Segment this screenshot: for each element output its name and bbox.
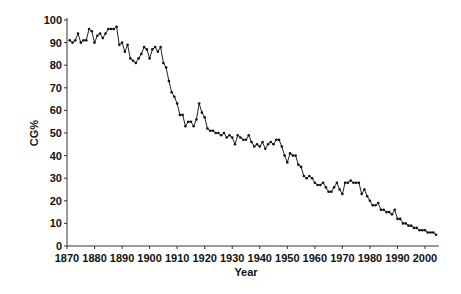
data-point — [429, 231, 432, 234]
x-tick-label: 1940 — [248, 252, 272, 264]
data-point — [173, 96, 176, 99]
data-point — [388, 211, 391, 214]
data-point — [327, 190, 330, 193]
data-point — [190, 120, 193, 123]
data-point — [231, 136, 234, 139]
data-point — [311, 177, 314, 180]
data-point — [426, 231, 429, 234]
data-point — [245, 138, 248, 141]
y-tick-label: 50 — [50, 127, 62, 139]
data-point — [292, 154, 295, 157]
data-point — [333, 186, 336, 189]
data-point — [391, 213, 394, 216]
data-point — [140, 53, 143, 56]
data-point — [129, 57, 132, 60]
data-point — [435, 233, 438, 236]
data-point — [377, 202, 380, 205]
data-point — [261, 141, 264, 144]
data-point — [432, 231, 435, 234]
data-point — [104, 32, 107, 35]
data-point — [168, 80, 171, 83]
data-point — [319, 184, 322, 187]
data-point — [214, 132, 217, 135]
x-tick-label: 1960 — [303, 252, 327, 264]
x-tick-label: 1950 — [275, 252, 299, 264]
data-point — [413, 227, 416, 230]
data-point — [239, 136, 242, 139]
data-point — [272, 143, 275, 146]
data-point — [275, 138, 278, 141]
data-point — [352, 181, 355, 184]
x-tick-label: 1890 — [110, 252, 134, 264]
data-point — [102, 37, 105, 40]
data-point — [247, 134, 250, 137]
x-axis-title: Year — [234, 266, 258, 278]
data-point — [256, 143, 259, 146]
data-point — [176, 102, 179, 105]
data-point — [399, 218, 402, 221]
y-tick-label: 80 — [50, 59, 62, 71]
y-tick-label: 0 — [56, 240, 62, 252]
y-tick-label: 40 — [50, 150, 62, 162]
data-point — [159, 46, 162, 49]
data-point — [217, 132, 220, 135]
data-point — [107, 28, 110, 31]
data-point — [396, 218, 399, 221]
data-point — [385, 211, 388, 214]
data-point — [281, 145, 284, 148]
data-point — [330, 190, 333, 193]
x-tick-label: 1900 — [137, 252, 161, 264]
x-axis: 1870188018901900191019201930194019501960… — [55, 246, 439, 264]
data-point — [424, 229, 427, 232]
data-point — [380, 209, 383, 212]
y-tick-label: 20 — [50, 195, 62, 207]
data-point — [110, 28, 113, 31]
data-point — [115, 25, 118, 28]
x-tick-label: 2000 — [413, 252, 437, 264]
data-point — [223, 132, 226, 135]
data-point — [347, 181, 350, 184]
data-point — [77, 32, 80, 35]
data-point — [322, 181, 325, 184]
data-point — [236, 134, 239, 137]
data-point — [79, 41, 82, 44]
y-tick-label: 100 — [44, 14, 62, 26]
x-tick-label: 1970 — [330, 252, 354, 264]
data-point — [336, 181, 339, 184]
data-point — [132, 59, 135, 62]
y-tick-label: 60 — [50, 104, 62, 116]
data-point — [355, 181, 358, 184]
data-point — [143, 46, 146, 49]
data-point — [203, 116, 206, 119]
data-point — [316, 184, 319, 187]
data-point — [195, 118, 198, 121]
data-point — [338, 188, 341, 191]
data-point — [126, 44, 129, 47]
data-point — [360, 193, 363, 196]
series-line — [70, 27, 436, 235]
data-point — [371, 204, 374, 207]
data-point — [212, 129, 215, 132]
data-point — [124, 50, 127, 53]
data-point — [382, 209, 385, 212]
data-point — [154, 46, 157, 49]
data-point — [121, 41, 124, 44]
data-point — [151, 48, 154, 51]
y-tick-label: 90 — [50, 37, 62, 49]
x-tick-label: 1990 — [385, 252, 409, 264]
data-point — [187, 120, 190, 123]
data-point — [374, 204, 377, 207]
data-point — [314, 181, 317, 184]
data-point — [344, 181, 347, 184]
data-point — [209, 129, 212, 132]
data-point — [88, 28, 91, 31]
data-point — [74, 39, 77, 42]
data-point — [206, 127, 209, 130]
data-point — [363, 188, 366, 191]
data-point — [113, 28, 116, 31]
data-point — [283, 154, 286, 157]
data-point — [349, 179, 352, 182]
data-point — [410, 224, 413, 227]
data-point — [234, 143, 237, 146]
data-point — [71, 41, 74, 44]
